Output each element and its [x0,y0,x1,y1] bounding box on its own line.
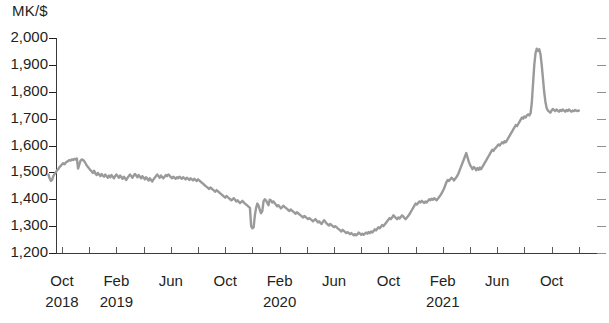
plot-area [0,0,609,323]
data-line-series-0 [48,49,578,236]
exchange-rate-chart: MK/$ 1,2001,3001,4001,5001,6001,7001,800… [0,0,609,323]
